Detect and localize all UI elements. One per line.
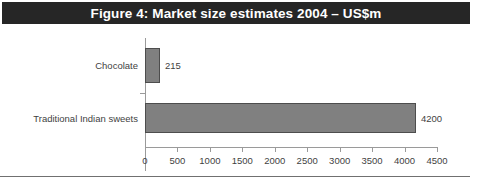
value-axis-tick-label: 2000 — [264, 155, 285, 166]
value-axis-tick — [307, 147, 308, 152]
figure-title-bar: Figure 4: Market size estimates 2004 – U… — [2, 2, 470, 24]
value-axis-tick — [275, 147, 276, 152]
value-axis-tick — [177, 147, 178, 152]
value-axis-tick-label: 1000 — [199, 155, 220, 166]
value-axis-tick-label: 1500 — [232, 155, 253, 166]
data-label-traditional-indian-sweets: 4200 — [421, 113, 442, 124]
bar-traditional-indian-sweets — [145, 103, 416, 133]
value-axis-tick-label: 0 — [142, 155, 147, 166]
value-axis-tick-label: 3500 — [362, 155, 383, 166]
value-axis-tick-label: 2500 — [297, 155, 318, 166]
figure-container: Figure 4: Market size estimates 2004 – U… — [0, 0, 479, 184]
category-axis-tick — [140, 93, 145, 94]
value-axis-tick-label: 3000 — [329, 155, 350, 166]
value-axis-tick-label: 500 — [169, 155, 185, 166]
value-axis-tick — [340, 147, 341, 152]
bottom-divider — [0, 176, 470, 177]
value-axis-tick-label: 4500 — [426, 155, 447, 166]
value-axis-line — [145, 147, 437, 148]
data-label-chocolate: 215 — [165, 60, 181, 71]
value-axis-tick — [405, 147, 406, 152]
plot-area: 0 500 1000 1500 2000 2500 3000 3500 4000… — [0, 24, 479, 177]
value-axis-tick-label: 4000 — [394, 155, 415, 166]
category-label-chocolate: Chocolate — [95, 60, 138, 71]
figure-title: Figure 4: Market size estimates 2004 – U… — [91, 6, 382, 21]
value-axis-tick — [210, 147, 211, 152]
category-label-traditional-indian-sweets: Traditional Indian sweets — [33, 113, 138, 124]
bar-chocolate — [145, 48, 160, 83]
value-axis-tick — [372, 147, 373, 152]
value-axis-tick — [145, 147, 146, 152]
value-axis-tick — [242, 147, 243, 152]
value-axis-tick — [437, 147, 438, 152]
